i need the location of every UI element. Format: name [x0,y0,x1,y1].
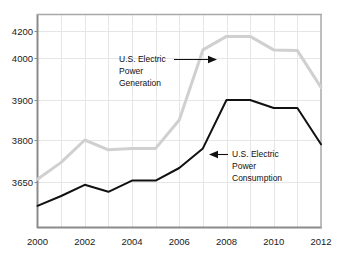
chart-background [0,0,337,254]
x-axis-tick-label: 2012 [310,236,331,247]
generation-annotation-line-1: U.S. Electric [119,54,167,64]
x-axis-tick-label: 2002 [74,236,95,247]
x-axis-tick-label: 2008 [216,236,237,247]
x-axis-tick-label: 2010 [263,236,284,247]
y-axis-tick-label: 3800 [12,135,33,146]
consumption-annotation-line-3: Consumption [232,173,282,183]
x-axis-tick-label: 2006 [169,236,190,247]
x-axis-tick-label: 2004 [121,236,142,247]
y-axis-tick-label: 3650 [12,177,33,188]
consumption-annotation-line-1: U.S. Electric [232,149,280,159]
line-chart: 42004000390038003650 2000200220042006200… [0,0,337,254]
y-axis-tick-label: 4200 [12,26,33,37]
x-axis-tick-label: 2000 [27,236,48,247]
consumption-annotation-line-2: Power [232,161,256,171]
generation-annotation-line-3: Generation [119,78,161,88]
generation-annotation-line-2: Power [119,66,143,76]
y-axis-tick-label: 4000 [12,53,33,64]
y-axis-tick-label: 3900 [12,95,33,106]
chart-container: 42004000390038003650 2000200220042006200… [0,0,337,254]
